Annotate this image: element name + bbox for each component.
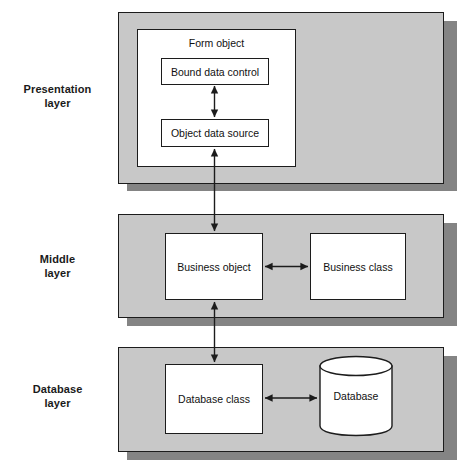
database-layer-label: Database layer (0, 382, 115, 410)
presentation-layer-label-line2: layer (0, 96, 115, 110)
business-class-box[interactable]: Business class (310, 233, 406, 300)
database-cylinder[interactable]: Database (318, 355, 394, 437)
database-class-box[interactable]: Database class (165, 364, 263, 434)
presentation-layer-label: Presentation layer (0, 82, 115, 110)
business-object-label: Business object (177, 261, 251, 273)
architecture-diagram: Presentation layer Form object Bound dat… (0, 0, 466, 475)
presentation-layer-label-line1: Presentation (24, 83, 92, 95)
database-class-label: Database class (178, 393, 250, 405)
form-object-label: Form object (138, 37, 295, 49)
middle-layer-label: Middle layer (0, 252, 115, 280)
middle-layer-label-line1: Middle (40, 253, 75, 265)
database-layer-label-line2: layer (0, 396, 115, 410)
business-class-label: Business class (323, 261, 392, 273)
middle-layer-label-line2: layer (0, 266, 115, 280)
bound-data-control-label: Bound data control (171, 66, 259, 78)
database-layer-label-line1: Database (33, 383, 83, 395)
object-data-source-box[interactable]: Object data source (161, 119, 269, 147)
database-cylinder-icon (318, 355, 394, 437)
business-object-box[interactable]: Business object (165, 233, 263, 300)
object-data-source-label: Object data source (171, 127, 259, 139)
bound-data-control-box[interactable]: Bound data control (161, 58, 269, 85)
